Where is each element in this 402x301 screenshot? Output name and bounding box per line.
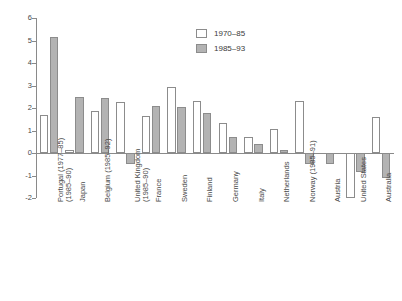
x-axis-tick-label: Belgium (1985–92) (104, 139, 112, 202)
bar (167, 87, 176, 153)
y-axis-tick-label: 2 (2, 104, 32, 112)
legend-item-series-a: 1970–85 (196, 27, 245, 39)
legend-swatch-series-a (196, 29, 207, 38)
x-axis-tick-label: Finland (206, 177, 214, 202)
bar (346, 153, 355, 198)
legend-swatch-series-b (196, 44, 207, 53)
y-axis-tick-label: 3 (2, 82, 32, 90)
legend-label-series-b: 1985–93 (214, 44, 245, 53)
x-axis-tick-label: Italy (258, 188, 266, 202)
bar (177, 107, 186, 153)
bar (270, 129, 279, 153)
bar (229, 137, 238, 153)
bar (40, 115, 49, 153)
x-axis-tick-label: Portugal (1977–85) (1985–90) (57, 138, 74, 202)
bar (75, 97, 84, 153)
chart-legend: 1970–85 1985–93 (196, 27, 245, 57)
y-axis-tick-label: 6 (2, 14, 32, 22)
x-axis-tick-label: Germany (232, 171, 240, 202)
x-axis-tick-label: United Kingdom (1985–90) (134, 149, 151, 202)
bar-group (368, 18, 394, 198)
x-axis-tick-label: Japan (79, 182, 87, 202)
bar (372, 117, 381, 153)
x-axis-tick-label: Sweden (181, 175, 189, 202)
x-axis-tick-label: United States (360, 157, 368, 202)
bar (142, 116, 151, 153)
bar (91, 111, 100, 153)
bar (203, 113, 212, 154)
bar (50, 37, 59, 153)
bar (116, 102, 125, 153)
bar-group (164, 18, 190, 198)
y-axis-tick-label: 0 (2, 149, 32, 157)
y-axis-tick-label: 4 (2, 59, 32, 67)
bar (326, 153, 335, 164)
y-axis-tick-label: 5 (2, 37, 32, 45)
y-axis-tick (32, 198, 36, 199)
y-axis-tick-label: -2 (2, 194, 32, 202)
chart-figure: -2-10123456 Portugal (1977–85) (1985–90)… (0, 0, 402, 301)
x-axis-tick-label: Norway (1985–91) (309, 140, 317, 202)
legend-item-series-b: 1985–93 (196, 42, 245, 54)
x-axis-tick-label: Netherlands (283, 162, 291, 202)
y-axis-tick-label: -1 (2, 172, 32, 180)
bar-group (317, 18, 343, 198)
x-axis-tick-label: Austria (334, 179, 342, 202)
bar (280, 150, 289, 153)
x-axis-tick-label: Australia (385, 173, 393, 202)
bar (295, 101, 304, 153)
bar (254, 144, 263, 153)
bar (244, 137, 253, 153)
bar (152, 106, 161, 153)
bar (193, 101, 202, 153)
y-axis-tick-label: 1 (2, 127, 32, 135)
x-axis-tick-label: France (155, 179, 163, 202)
bar (219, 123, 228, 153)
legend-label-series-a: 1970–85 (214, 29, 245, 38)
